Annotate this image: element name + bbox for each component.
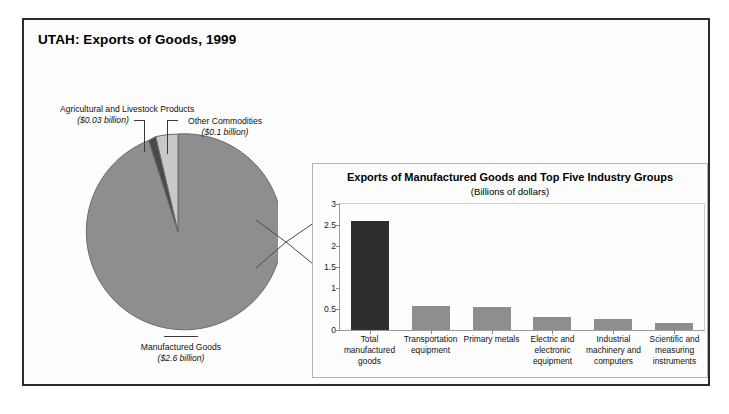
y-tick-label: 2: [331, 241, 336, 251]
leader-line-other-vertical: [167, 120, 168, 154]
pie-slice-manufactured: [86, 134, 278, 330]
bar-slot: [461, 204, 522, 330]
figure-frame: UTAH: Exports of Goods, 1999 Agricultura…: [22, 18, 710, 386]
plot-area: 00.511.522.53: [339, 203, 705, 331]
bar[interactable]: [473, 307, 511, 330]
pie-label-manufactured: Manufactured Goods ($2.6 billion): [116, 342, 246, 364]
pie-label-other-name: Other Commodities: [188, 116, 262, 126]
bar[interactable]: [533, 317, 571, 330]
leader-line-manufactured-horizontal: [164, 336, 198, 337]
page-title: UTAH: Exports of Goods, 1999: [38, 32, 236, 47]
x-axis-category-label: Transportation equipment: [400, 334, 461, 376]
bar[interactable]: [351, 221, 389, 330]
y-tick-label: 0.5: [324, 304, 336, 314]
bar[interactable]: [412, 306, 450, 330]
pie-chart-svg: [78, 132, 278, 332]
pie-label-other-amount: ($0.1 billion): [202, 127, 249, 137]
pie-label-agricultural-name: Agricultural and Livestock Products: [60, 104, 194, 114]
bar-slot: [401, 204, 462, 330]
x-axis-category-label: Industrial machinery and computers: [583, 334, 644, 376]
y-tick-label: 0: [331, 325, 336, 335]
bar-slot: [643, 204, 704, 330]
inset-chart-title: Exports of Manufactured Goods and Top Fi…: [313, 171, 707, 183]
pie-label-manufactured-name: Manufactured Goods: [141, 342, 221, 352]
bar[interactable]: [655, 323, 693, 330]
x-axis-category-label: Total manufactured goods: [339, 334, 400, 376]
pie-label-other-commodities: Other Commodities ($0.1 billion): [170, 116, 280, 138]
bar[interactable]: [594, 319, 632, 330]
bar-slot: [583, 204, 644, 330]
pie-label-agricultural-amount: ($0.03 billion): [77, 115, 129, 125]
y-tick-label: 2.5: [324, 220, 336, 230]
pie-label-agricultural: Agricultural and Livestock Products ($0.…: [60, 104, 146, 126]
inset-bar-chart-panel: Exports of Manufactured Goods and Top Fi…: [312, 163, 708, 378]
pie-label-manufactured-amount: ($2.6 billion): [158, 353, 205, 363]
callout-connector: [256, 216, 318, 272]
y-tick-label: 3: [331, 199, 336, 209]
x-axis-labels: Total manufactured goodsTransportation e…: [339, 334, 705, 376]
pie-chart: [78, 132, 278, 332]
x-axis-category-label: Primary metals: [461, 334, 522, 376]
x-axis-category-label: Scientific and measuring instruments: [644, 334, 705, 376]
bar-slot: [340, 204, 401, 330]
y-tick-mark: [336, 330, 340, 331]
bar-slot: [522, 204, 583, 330]
inset-chart-subtitle: (Billions of dollars): [313, 186, 707, 197]
y-tick-label: 1: [331, 283, 336, 293]
bars-container: [340, 204, 704, 330]
y-tick-label: 1.5: [324, 262, 336, 272]
x-axis-category-label: Electric and electronic equipment: [522, 334, 583, 376]
